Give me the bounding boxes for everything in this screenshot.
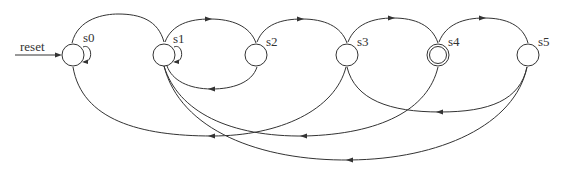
arrow-icon — [208, 87, 215, 92]
arrow-icon — [388, 16, 395, 21]
edge-s2-s1 — [167, 66, 257, 89]
arrow-icon — [479, 16, 486, 21]
state-diagram: reset s0 s1 s2 s3 — [0, 0, 561, 169]
accepting-ring-icon — [430, 47, 447, 64]
state-label-s0: s0 — [83, 30, 95, 45]
state-s0[interactable]: s0 — [62, 30, 95, 66]
arrow-icon — [208, 134, 215, 139]
state-label-s3: s3 — [357, 34, 369, 49]
state-s3[interactable]: s3 — [336, 34, 369, 66]
state-s2[interactable]: s2 — [245, 34, 278, 66]
state-s5[interactable]: s5 — [517, 34, 550, 66]
edge-s4-s1 — [164, 66, 438, 136]
arrow-icon — [205, 17, 212, 22]
reset-label: reset — [20, 39, 45, 54]
arrow-icon — [436, 110, 443, 115]
state-label-s1: s1 — [173, 31, 185, 46]
edge-s5-s3 — [347, 67, 527, 112]
edge-s3-s0 — [73, 67, 346, 136]
state-label-s5: s5 — [538, 34, 550, 49]
arrow-icon — [55, 53, 62, 58]
arrow-icon — [300, 134, 307, 139]
arrow-icon — [297, 17, 304, 22]
edge-s5-s1 — [164, 66, 527, 160]
state-label-s4: s4 — [448, 34, 460, 49]
state-label-s2: s2 — [266, 34, 278, 49]
arrow-icon — [346, 158, 353, 163]
state-s4[interactable]: s4 — [427, 34, 460, 66]
